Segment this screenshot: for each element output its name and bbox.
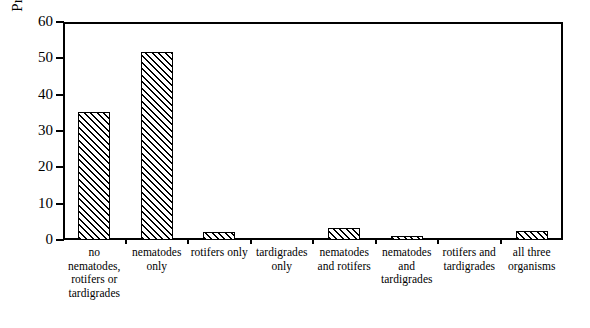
x-axis-tick-mark	[250, 240, 252, 244]
x-axis-category-label: nematodesand rotifers	[313, 246, 376, 273]
x-axis-category-label: all threeorganisms	[501, 246, 564, 273]
bar	[141, 52, 173, 240]
y-axis-tick-label: 30	[3, 123, 53, 138]
y-axis-tick-label: 40	[3, 87, 53, 102]
bar-chart-figure: Proportion of samples (%) 0102030405060 …	[0, 0, 590, 328]
x-axis-category-label: nematodesandtardigrades	[376, 246, 439, 287]
x-axis-category-label-line: rotifers or	[63, 273, 126, 287]
bar	[78, 112, 110, 240]
x-axis-tick-mark	[187, 240, 189, 244]
bar	[516, 231, 548, 240]
y-axis-tick-label: 60	[3, 14, 53, 29]
x-axis-tick-mark	[125, 240, 127, 244]
x-axis-tick-mark	[312, 240, 314, 244]
bar	[328, 228, 360, 240]
x-axis-category-label-line: nematodes,	[63, 260, 126, 274]
x-axis-category-label: tardigradesonly	[251, 246, 314, 273]
x-axis-tick-mark	[500, 240, 502, 244]
x-axis-category-label-line: tardigrades	[63, 287, 126, 301]
x-axis-category-label-line: and rotifers	[313, 260, 376, 274]
x-axis-category-label: nematodesonly	[126, 246, 189, 273]
x-axis-category-label-line: organisms	[501, 260, 564, 274]
x-axis-category-label-line: tardigrades	[251, 246, 314, 260]
x-axis-category-label: nonematodes,rotifers ortardigrades	[63, 246, 126, 300]
x-axis-category-label-line: only	[251, 260, 314, 274]
x-axis-category-label-line: tardigrades	[376, 273, 439, 287]
x-axis-tick-mark	[437, 240, 439, 244]
x-axis-category-label-line: no	[63, 246, 126, 260]
x-axis-category-label-line: rotifers and	[438, 246, 501, 260]
y-axis-ticks: 0102030405060	[0, 0, 64, 328]
y-axis-tick-label: 20	[3, 159, 53, 174]
x-axis-category-label: rotifers andtardigrades	[438, 246, 501, 273]
x-axis-category-label-line: nematodes	[313, 246, 376, 260]
x-axis-labels: nonematodes,rotifers ortardigradesnemato…	[63, 246, 563, 326]
x-axis-category-label-line: nematodes	[376, 246, 439, 260]
x-axis-category-label-line: all three	[501, 246, 564, 260]
x-axis-category-label-line: and	[376, 260, 439, 274]
x-axis-category-label-line: tardigrades	[438, 260, 501, 274]
bar	[203, 232, 235, 240]
bar-series	[63, 22, 563, 240]
x-axis-category-label-line: rotifers only	[188, 246, 251, 260]
y-axis-tick-label: 10	[3, 196, 53, 211]
y-axis-tick-label: 0	[3, 232, 53, 247]
x-axis-category-label-line: only	[126, 260, 189, 274]
x-axis-category-label-line: nematodes	[126, 246, 189, 260]
x-axis-tick-mark	[375, 240, 377, 244]
y-axis-tick-label: 50	[3, 50, 53, 65]
x-axis-category-label: rotifers only	[188, 246, 251, 260]
